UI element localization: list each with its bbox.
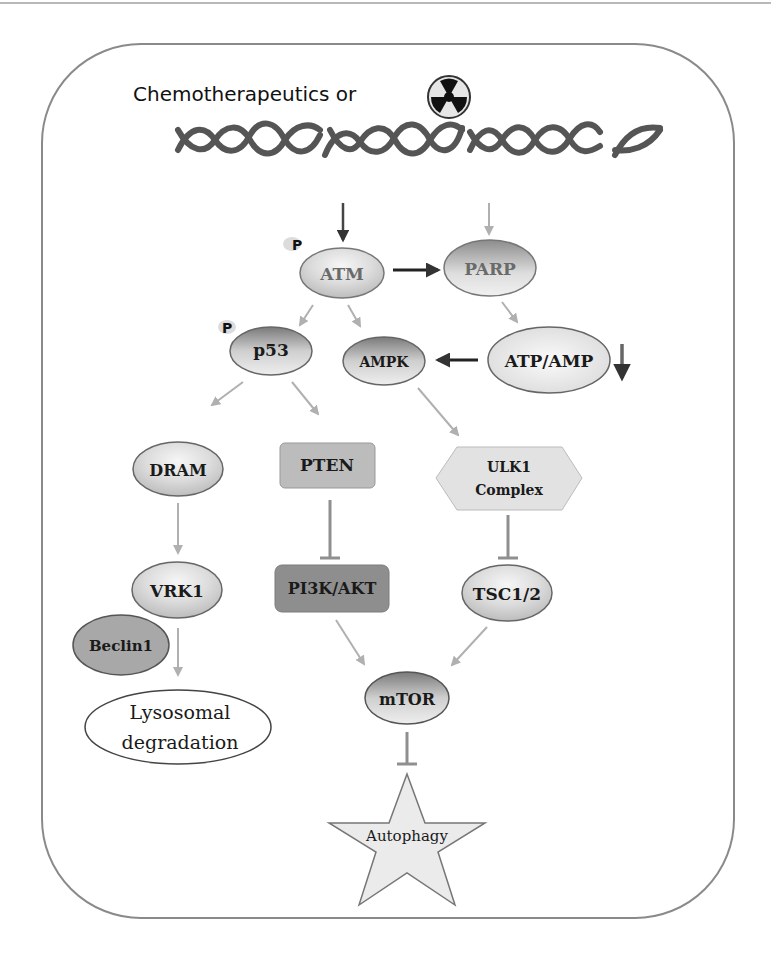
node-vrk1: VRK1 bbox=[132, 562, 222, 618]
node-pi3k-akt: PI3K/AKT bbox=[275, 565, 389, 612]
label-ampk: AMPK bbox=[358, 354, 409, 370]
label-atp-amp: ATP/AMP bbox=[504, 351, 594, 371]
label-dram: DRAM bbox=[149, 461, 206, 480]
node-mtor: mTOR bbox=[365, 672, 449, 724]
arrow-pi3k-mtor bbox=[336, 620, 364, 664]
label-lysosomal-line1: Lysosomal bbox=[130, 701, 231, 723]
label-p53: p53 bbox=[253, 340, 289, 360]
label-mtor: mTOR bbox=[379, 690, 436, 709]
svg-text:PARP: PARP bbox=[464, 259, 516, 279]
node-atp-amp: ATP/AMP bbox=[488, 327, 610, 393]
phospho-tag-p53: P bbox=[222, 320, 232, 336]
arrow-parp-atpamp bbox=[502, 302, 517, 322]
node-parp: PARP bbox=[444, 240, 536, 296]
radiation-icon bbox=[428, 76, 470, 118]
label-tsc: TSC1/2 bbox=[473, 584, 541, 604]
label-ulk1-line2: Complex bbox=[475, 482, 543, 498]
arrow-atm-p53 bbox=[300, 305, 313, 325]
label-beclin1: Beclin1 bbox=[89, 637, 153, 655]
label-autophagy: Autophagy bbox=[365, 827, 448, 845]
node-atm: P ATM bbox=[283, 237, 384, 298]
arrow-ampk-ulk1 bbox=[418, 388, 458, 435]
node-pten: PTEN bbox=[280, 443, 375, 488]
pathway-diagram: P ATM PARP P p53 AMPK ATP/AMP DRAM PTEN … bbox=[0, 0, 771, 955]
arrow-p53-pten bbox=[292, 382, 318, 414]
arrow-tsc-mtor bbox=[452, 627, 487, 665]
node-beclin1: Beclin1 bbox=[73, 615, 169, 675]
label-lysosomal-line2: degradation bbox=[122, 731, 239, 753]
node-tsc: TSC1/2 bbox=[462, 565, 552, 621]
label-vrk1: VRK1 bbox=[149, 581, 204, 601]
node-dram: DRAM bbox=[133, 442, 223, 496]
label-pi3k-akt: PI3K/AKT bbox=[288, 579, 377, 598]
arrow-p53-dram bbox=[212, 382, 243, 405]
label-pten: PTEN bbox=[300, 455, 354, 475]
node-p53: P p53 bbox=[218, 320, 312, 375]
arrow-atm-ampk bbox=[348, 305, 360, 326]
node-autophagy: Autophagy bbox=[329, 774, 485, 905]
node-lysosomal-degradation: Lysosomal degradation bbox=[85, 690, 271, 764]
dna-helix-icon bbox=[178, 124, 660, 155]
node-ampk: AMPK bbox=[343, 337, 425, 385]
label-atm: ATM bbox=[319, 264, 364, 284]
phospho-tag-atm: P bbox=[292, 237, 302, 253]
label-ulk1-line1: ULK1 bbox=[487, 459, 531, 475]
node-ulk1-complex: ULK1 Complex bbox=[436, 447, 582, 510]
